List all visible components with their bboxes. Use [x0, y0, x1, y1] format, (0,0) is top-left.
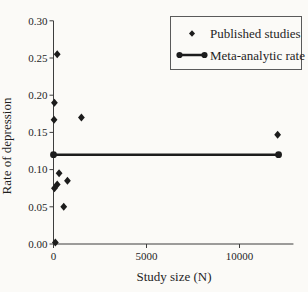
published-study-point — [64, 177, 71, 185]
published-study-point — [60, 203, 67, 211]
y-tick-label: 0.05 — [28, 201, 48, 213]
legend: Published studies Meta-analytic rate — [171, 17, 306, 70]
published-study-point — [54, 50, 61, 58]
meta-analysis-funnel-figure: 0.000.050.100.150.200.250.300500010000 R… — [0, 0, 308, 292]
y-axis-title: Rate of depression — [0, 97, 14, 194]
x-axis-title: Study size (N) — [136, 269, 211, 284]
y-tick-label: 0.15 — [28, 126, 48, 138]
meta-analytic-rate-endpoint — [50, 151, 57, 158]
x-tick-label: 0 — [51, 250, 57, 262]
y-tick-label: 0.10 — [28, 163, 48, 175]
meta-analytic-rate-endpoint — [275, 151, 282, 158]
legend-label-published: Published studies — [210, 26, 301, 41]
y-tick-label: 0.20 — [28, 89, 48, 101]
data-series — [50, 50, 282, 246]
published-study-point — [274, 131, 281, 139]
published-study-point — [56, 169, 63, 177]
scatter-plot: 0.000.050.100.150.200.250.300500010000 R… — [0, 0, 308, 292]
published-study-point — [51, 116, 58, 124]
x-tick-label: 5000 — [136, 250, 159, 262]
legend-line-start-dot-icon — [176, 52, 182, 58]
y-tick-label: 0.25 — [28, 52, 48, 64]
published-study-point — [51, 99, 58, 107]
x-tick-label: 10000 — [226, 250, 254, 262]
published-study-point — [52, 239, 59, 247]
legend-line-end-dot-icon — [201, 52, 207, 58]
published-study-point — [78, 114, 85, 122]
legend-label-meta: Meta-analytic rate — [210, 48, 305, 63]
y-tick-label: 0.00 — [28, 238, 48, 250]
y-tick-label: 0.30 — [28, 15, 48, 27]
